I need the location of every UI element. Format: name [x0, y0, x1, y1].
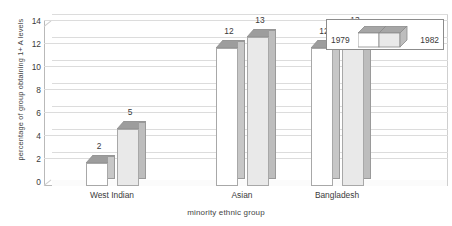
y-axis-tick-label: 0 — [19, 177, 41, 187]
bar-west-indian-1979[interactable]: 2 — [86, 163, 108, 186]
y-axis-tick-label: 12 — [19, 39, 41, 49]
bar-asian-1982[interactable]: 13 — [247, 37, 269, 186]
bar-side-face — [139, 122, 146, 179]
bar-value-label: 5 — [105, 107, 155, 117]
bar-side-face — [269, 30, 276, 179]
bar-front-face — [311, 48, 333, 186]
bar-chart: percentage of group obtaining 1+ A level… — [0, 0, 452, 226]
gridline — [44, 66, 448, 67]
y-axis-tick-label: 4 — [19, 131, 41, 141]
bar-side-face — [238, 41, 245, 179]
plot-corner-connector — [44, 20, 53, 27]
bar-front-face — [216, 48, 238, 186]
bar-asian-1979[interactable]: 12 — [216, 48, 238, 186]
legend[interactable]: 1979 1982 — [326, 19, 444, 50]
bar-front-face — [86, 163, 108, 186]
x-axis-title: minority ethnic group — [0, 208, 452, 217]
x-axis-category-west-indian: West Indian — [52, 190, 172, 200]
gridline — [44, 89, 448, 90]
legend-label-1982: 1982 — [420, 35, 439, 45]
y-axis-tick-label: 6 — [19, 108, 41, 118]
y-axis-tick-label: 14 — [19, 16, 41, 26]
legend-swatch-3d-box — [358, 26, 414, 48]
bar-bangladesh-1982[interactable]: 13 — [342, 37, 364, 186]
x-axis-category-bangladesh: Bangladesh — [277, 190, 397, 200]
bar-value-label: 13 — [235, 15, 285, 25]
y-axis-tick-label: 2 — [19, 154, 41, 164]
y-axis-tick-label: 8 — [19, 85, 41, 95]
bar-front-face — [342, 37, 364, 186]
bar-front-face — [117, 129, 139, 186]
bar-side-face — [333, 41, 340, 179]
bar-side-face — [364, 30, 371, 179]
legend-label-1979: 1979 — [331, 35, 350, 45]
bar-side-face — [108, 156, 115, 179]
gridline — [44, 135, 448, 136]
bar-bangladesh-1979[interactable]: 12 — [311, 48, 333, 186]
bar-front-face — [247, 37, 269, 186]
bar-west-indian-1982[interactable]: 5 — [117, 129, 139, 186]
y-axis-tick-label: 10 — [19, 62, 41, 72]
